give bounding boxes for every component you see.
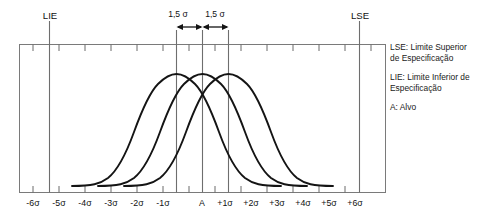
legend-entry-lie: LIE: Limite Inferior de Especificação xyxy=(390,72,496,93)
legend-entry-lse-line-1: LSE: Limite Superior xyxy=(390,42,496,53)
shift-label-right: 1,5 σ xyxy=(204,9,226,19)
legend-entry-lse: LSE: Limite Superior de Especificação xyxy=(390,42,496,63)
six-sigma-distribution-figure: 1,5 σ 1,5 σ LIE LSE -6σ -5σ -4σ -3σ -2σ … xyxy=(0,0,499,222)
legend-entry-alvo: A: Alvo xyxy=(390,102,496,113)
legend-entry-lie-line-2: Especificação xyxy=(390,83,496,94)
legend-entry-alvo-line-1: A: Alvo xyxy=(390,102,496,113)
legend: LSE: Limite Superior de Especificação LI… xyxy=(390,42,496,113)
shift-label-left: 1,5 σ xyxy=(167,9,189,19)
lie-label: LIE xyxy=(35,10,65,21)
x-tick-label-5: -1σ xyxy=(144,198,182,208)
x-tick-label-12: +6σ xyxy=(336,198,374,208)
legend-entry-lie-line-1: LIE: Limite Inferior de xyxy=(390,72,496,83)
lse-label: LSE xyxy=(345,10,375,21)
shift-annotation-left xyxy=(177,24,203,30)
shift-annotation-right xyxy=(203,24,229,30)
x-axis-tick-labels: -6σ -5σ -4σ -3σ -2σ -1σ A +1σ +2σ +3σ +4… xyxy=(19,198,385,212)
bottom-axis-ticks xyxy=(33,186,345,193)
legend-entry-lse-line-2: de Especificação xyxy=(390,53,496,64)
